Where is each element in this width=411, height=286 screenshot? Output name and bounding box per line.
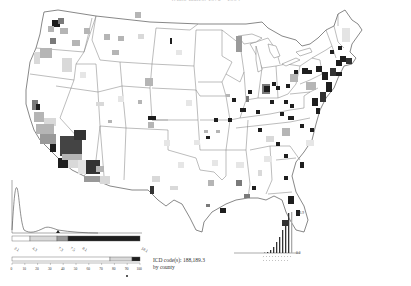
- bar-chart-max-label: 156.9: [296, 211, 304, 215]
- icd-caption: ICD code(s): 188,189.3 by county: [153, 257, 205, 271]
- pct-label-70: 70: [99, 267, 103, 271]
- us-county-map: 2.1 4.3 7.3 7.5 8.1 18.1 0 10 20 30 40 5…: [0, 0, 411, 286]
- rate-label-5: 18.1: [141, 246, 150, 254]
- pct-label-50: 50: [74, 267, 78, 271]
- pct-label-30: 30: [48, 267, 52, 271]
- rate-label-2: 7.3: [58, 246, 65, 253]
- rate-label-1: 4.3: [32, 246, 39, 253]
- rate-label-3: 7.5: [70, 246, 77, 253]
- by-county-text: by county: [153, 264, 205, 271]
- bar-chart-min-label: 0.0: [296, 251, 301, 255]
- pct-label-40: 40: [61, 267, 65, 271]
- svg-text:·: ·: [261, 257, 264, 260]
- pct-label-10: 10: [23, 267, 27, 271]
- pct-label-90: 90: [125, 267, 129, 271]
- pct-label-0: 0: [11, 267, 13, 271]
- pct-label-100: 100: [137, 267, 143, 271]
- pct-label-20: 20: [35, 267, 39, 271]
- percentile-dot: [126, 275, 128, 277]
- rate-label-4: 8.1: [82, 246, 89, 253]
- pct-label-60: 60: [87, 267, 91, 271]
- pct-label-80: 80: [112, 267, 116, 271]
- icd-code-text: ICD code(s): 188,189.3: [153, 257, 205, 264]
- rate-label-0: 2.1: [14, 246, 21, 253]
- rate-color-bar: 2.1 4.3 7.3 7.5 8.1 18.1: [12, 236, 149, 253]
- percentile-bar: 0 10 20 30 40 50 60 70 80 90 100: [11, 257, 143, 277]
